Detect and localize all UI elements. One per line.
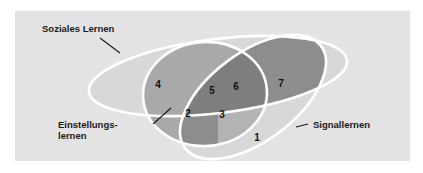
set-label-soziales-lernen: Soziales Lernen xyxy=(42,23,115,34)
venn-diagram-figure: 1 2 3 4 5 6 7 Soziales Lernen Einstellun… xyxy=(0,0,423,173)
region-number-3: 3 xyxy=(219,109,225,120)
set-label-einstellungslernen-line1: Einstellungs- xyxy=(58,119,118,130)
region-number-5: 5 xyxy=(209,85,215,96)
region-number-2: 2 xyxy=(185,108,191,119)
region-number-7: 7 xyxy=(278,78,284,89)
region-number-6: 6 xyxy=(233,81,239,92)
region-number-4: 4 xyxy=(155,79,161,90)
set-label-einstellungslernen-line2: lernen xyxy=(58,130,87,141)
region-number-1: 1 xyxy=(254,132,260,143)
set-label-signallernen: Signallernen xyxy=(313,119,370,130)
venn-diagram-canvas: 1 2 3 4 5 6 7 Soziales Lernen Einstellun… xyxy=(0,0,423,173)
